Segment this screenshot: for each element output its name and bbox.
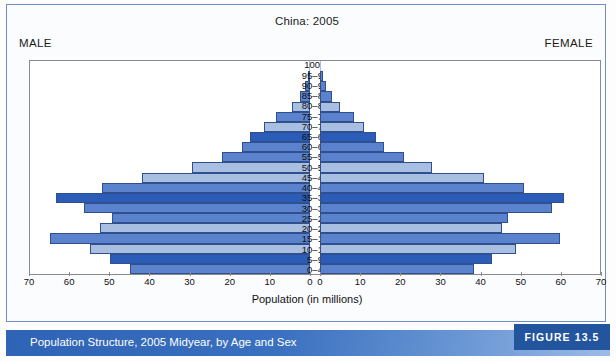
bar-male-55-59 <box>222 152 310 162</box>
pyramid-row <box>320 233 600 243</box>
pyramid-row <box>30 162 310 172</box>
axis-tick-label: 10 <box>265 276 276 287</box>
axis-tick-label: 70 <box>596 276 607 287</box>
pyramid-row <box>320 81 600 91</box>
bar-male-80-84 <box>292 102 310 112</box>
bar-female-55-59 <box>320 152 404 162</box>
pyramid-row <box>320 142 600 152</box>
pyramid-row <box>30 91 310 101</box>
pyramid-row <box>30 142 310 152</box>
bar-female-20-24 <box>320 223 502 233</box>
bar-female-100+ <box>320 61 321 71</box>
axis-tick-label: 0 <box>307 276 312 287</box>
bar-female-85-89 <box>320 91 332 101</box>
pyramid-row <box>320 102 600 112</box>
x-axis-title: Population (in millions) <box>7 293 607 305</box>
axis-tick-label: 50 <box>104 276 115 287</box>
caption-text: Population Structure, 2005 Midyear, by A… <box>30 336 297 348</box>
pyramid-row <box>320 162 600 172</box>
pyramid-row <box>30 264 310 274</box>
pyramid-row <box>30 112 310 122</box>
female-plot-area <box>320 60 601 275</box>
pyramid-row <box>30 213 310 223</box>
chart-card: China: 2005 MALE FEMALE 100+95–9990–9485… <box>6 4 606 322</box>
male-bar-rows <box>30 61 310 274</box>
pyramid-row <box>320 264 600 274</box>
axis-tick-label: 50 <box>515 276 526 287</box>
figure-container: China: 2005 MALE FEMALE 100+95–9990–9485… <box>0 0 616 361</box>
axis-tick-label: 30 <box>435 276 446 287</box>
axis-tick-label: 60 <box>556 276 567 287</box>
figure-number-badge: FIGURE 13.5 <box>514 324 610 350</box>
pyramid-row <box>320 193 600 203</box>
bar-male-60-64 <box>242 142 310 152</box>
pyramid-row <box>320 213 600 223</box>
axis-tick-label: 20 <box>224 276 235 287</box>
pyramid-row <box>320 152 600 162</box>
bar-male-30-34 <box>84 203 310 213</box>
chart-title: China: 2005 <box>7 15 607 27</box>
bar-male-40-44 <box>102 183 310 193</box>
bar-male-0-4 <box>130 264 310 274</box>
figure-number-text: FIGURE 13.5 <box>524 331 599 343</box>
pyramid-row <box>30 203 310 213</box>
axis-tick-label: 20 <box>395 276 406 287</box>
female-x-axis: 010203040506070 <box>320 276 601 292</box>
pyramid-row <box>320 61 600 71</box>
bar-female-15-19 <box>320 233 560 243</box>
bar-male-5-9 <box>110 254 310 264</box>
pyramid-row <box>30 81 310 91</box>
bar-female-80-84 <box>320 102 340 112</box>
pyramid-row <box>320 71 600 81</box>
pyramid-row <box>30 71 310 81</box>
pyramid-row <box>320 122 600 132</box>
bar-male-45-49 <box>142 173 310 183</box>
pyramid-row <box>30 122 310 132</box>
pyramid-row <box>30 132 310 142</box>
male-plot-area <box>29 60 310 275</box>
bar-male-70-74 <box>264 122 310 132</box>
axis-tick-label: 40 <box>475 276 486 287</box>
pyramid-row <box>30 254 310 264</box>
bar-male-10-14 <box>90 244 310 254</box>
bar-female-5-9 <box>320 254 492 264</box>
bar-female-0-4 <box>320 264 474 274</box>
female-bar-rows <box>320 61 600 274</box>
bar-female-45-49 <box>320 173 484 183</box>
pyramid-row <box>30 102 310 112</box>
female-side-label: FEMALE <box>545 37 593 49</box>
pyramid-row <box>320 244 600 254</box>
bar-male-75-79 <box>276 112 310 122</box>
bar-female-75-79 <box>320 112 354 122</box>
bar-female-30-34 <box>320 203 552 213</box>
bar-male-35-39 <box>56 193 310 203</box>
pyramid-row <box>320 223 600 233</box>
axis-tick-label: 60 <box>64 276 75 287</box>
pyramid-row <box>30 173 310 183</box>
pyramid-row <box>30 223 310 233</box>
bar-male-50-54 <box>192 162 310 172</box>
pyramid-row <box>320 173 600 183</box>
pyramid-row <box>30 152 310 162</box>
pyramid-row <box>30 244 310 254</box>
pyramid-row <box>320 183 600 193</box>
male-side-label: MALE <box>19 37 52 49</box>
pyramid-row <box>320 112 600 122</box>
pyramid-row <box>320 254 600 264</box>
bar-female-65-69 <box>320 132 376 142</box>
bar-female-70-74 <box>320 122 364 132</box>
bar-female-95-99 <box>320 71 323 81</box>
bar-female-10-14 <box>320 244 516 254</box>
bar-female-35-39 <box>320 193 564 203</box>
bar-male-20-24 <box>100 223 310 233</box>
bar-female-90-94 <box>320 81 326 91</box>
bar-male-15-19 <box>50 233 310 243</box>
axis-tick-label: 0 <box>317 276 322 287</box>
bar-female-40-44 <box>320 183 524 193</box>
pyramid-row <box>320 132 600 142</box>
bar-female-60-64 <box>320 142 384 152</box>
pyramid-row <box>30 233 310 243</box>
bar-male-85-89 <box>300 91 310 101</box>
pyramid-row <box>30 193 310 203</box>
age-axis-column <box>310 60 320 275</box>
